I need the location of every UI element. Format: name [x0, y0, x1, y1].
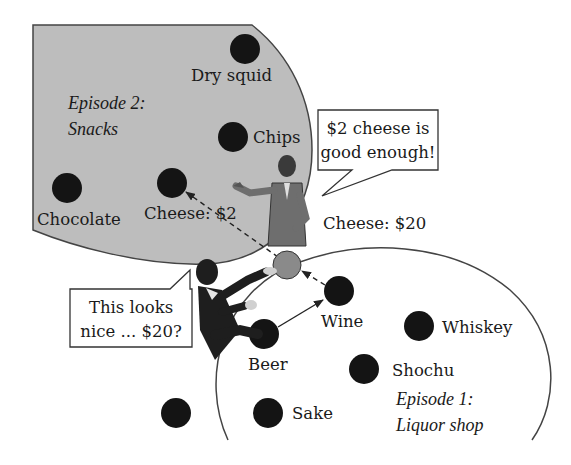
episode1-title-line2: Liquor shop [395, 415, 484, 435]
node-dry-squid [230, 34, 260, 64]
episode-diagram: Episode 2: Snacks Dry squid Chips Chocol… [0, 0, 571, 465]
node-chips [218, 122, 248, 152]
label-sake: Sake [292, 404, 333, 423]
episode2-title-line1: Episode 2: [67, 93, 145, 113]
node-whiskey [404, 311, 434, 341]
label-cheese-2: Cheese: $2 [144, 204, 237, 223]
clerk-speech-bubble: $2 cheese is good enough! [318, 110, 438, 196]
customer-bubble-line1: This looks [89, 298, 173, 317]
clerk-bubble-line2: good enough! [320, 143, 435, 162]
episode2-title-line2: Snacks [68, 119, 118, 139]
label-whiskey: Whiskey [442, 318, 513, 337]
label-chocolate: Chocolate [37, 210, 121, 229]
node-sake [253, 398, 283, 428]
label-shochu: Shochu [392, 361, 455, 380]
label-current-cheese-20: Cheese: $20 [323, 214, 426, 233]
node-unlabeled [161, 398, 191, 428]
episode1-title-line1: Episode 1: [395, 389, 473, 409]
node-cheese-2 [157, 168, 187, 198]
label-dry-squid: Dry squid [191, 66, 273, 85]
label-wine: Wine [321, 312, 363, 331]
node-shochu [349, 354, 379, 384]
customer-speech-bubble: This looks nice ... $20? [70, 270, 192, 347]
label-chips: Chips [253, 128, 301, 147]
customer-bubble-line2: nice ... $20? [80, 322, 182, 341]
label-beer: Beer [248, 355, 288, 374]
node-current-cheese-20 [273, 251, 301, 279]
node-chocolate [52, 173, 82, 203]
clerk-bubble-line1: $2 cheese is [327, 119, 430, 138]
node-wine [324, 276, 354, 306]
